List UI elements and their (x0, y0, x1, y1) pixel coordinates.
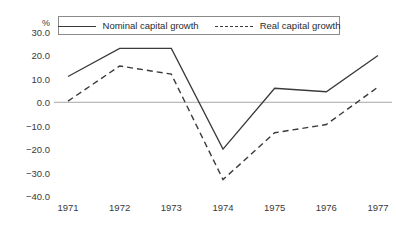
data-series-layer (68, 48, 378, 179)
legend-label-real: Real capital growth (260, 20, 341, 31)
series-line-real-capital-growth (68, 66, 378, 180)
legend-label-nominal: Nominal capital growth (103, 20, 199, 31)
chart-legend: Nominal capital growth Real capital grow… (58, 16, 340, 35)
legend-entry-nominal: Nominal capital growth (58, 20, 199, 31)
solid-line-swatch-icon (58, 22, 96, 30)
series-line-nominal-capital-growth (68, 48, 378, 149)
capital-growth-line-chart: % 30.020.010.00.0−10.0−20.0−30.0−40.0 19… (0, 0, 396, 231)
legend-entry-real: Real capital growth (215, 20, 341, 31)
dashed-line-swatch-icon (215, 22, 253, 30)
